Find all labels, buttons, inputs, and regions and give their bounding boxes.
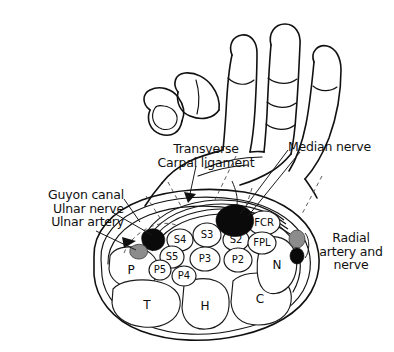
callout-radial-line1: Radial bbox=[310, 231, 392, 245]
bone-label-trapezium: T bbox=[142, 298, 151, 312]
tendon-label-s3: S3 bbox=[201, 229, 214, 240]
tendon-label-s4: S4 bbox=[174, 234, 187, 245]
median-nerve-structure bbox=[216, 205, 254, 237]
ulnar-artery-blob bbox=[130, 244, 148, 259]
callout-radial-line3: nerve bbox=[310, 258, 392, 272]
callout-radial-artery-nerve: Radial artery and nerve bbox=[310, 231, 392, 272]
tendon-label-p4: P4 bbox=[178, 270, 190, 281]
callout-transverse-line1: Transverse bbox=[150, 142, 262, 156]
callout-guyon-line3: Ulnar artery bbox=[2, 215, 124, 229]
tendon-label-p5: P5 bbox=[154, 264, 166, 275]
callout-guyon-line1: Guyon canal bbox=[2, 188, 124, 202]
callout-transverse-line2: Carpal ligament bbox=[150, 156, 262, 170]
callout-median-nerve: Median nerve bbox=[288, 140, 371, 154]
callout-median-line1: Median nerve bbox=[288, 140, 371, 154]
guide-dashed-right bbox=[302, 176, 322, 214]
tendon-label-s5: S5 bbox=[166, 251, 179, 262]
tendon-label-p2: P2 bbox=[232, 254, 244, 265]
tendon-label-fcr: FCR bbox=[254, 217, 274, 228]
bone-label-pisiform: P bbox=[127, 263, 134, 277]
guide-dashed-ulnar bbox=[146, 196, 160, 218]
callout-transverse-carpal-ligament: Transverse Carpal ligament bbox=[150, 142, 262, 169]
tendon-label-p3: P3 bbox=[199, 253, 211, 264]
guide-dashed-left bbox=[168, 182, 182, 208]
carpal-tunnel-figure: P T H C N S4 S3 S2 S5 P3 P2 bbox=[0, 0, 394, 352]
tendon-label-fpl: FPL bbox=[253, 237, 271, 248]
bone-label-capitate: C bbox=[256, 292, 264, 306]
radial-nerve-circle bbox=[290, 248, 304, 264]
callout-guyon-canal: Guyon canal Ulnar nerve Ulnar artery bbox=[2, 188, 124, 229]
radial-artery-circle bbox=[289, 230, 305, 248]
bone-label-navicular: N bbox=[273, 258, 282, 272]
wrist-cross-section: P T H C N S4 S3 S2 S5 P3 P2 bbox=[0, 0, 394, 352]
callout-guyon-line2: Ulnar nerve bbox=[2, 202, 124, 216]
bone-label-hamate: H bbox=[200, 299, 209, 313]
median-nerve-blob bbox=[216, 205, 254, 237]
callout-radial-line2: artery and bbox=[310, 245, 392, 259]
